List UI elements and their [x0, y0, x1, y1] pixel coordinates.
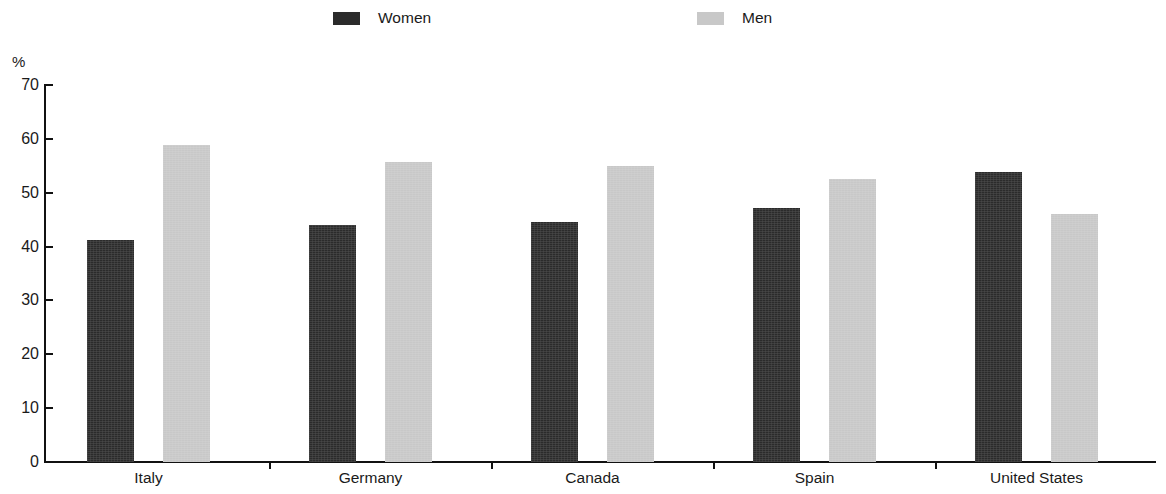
x-axis-category-label: Spain	[795, 470, 835, 486]
bar-men-italy	[163, 145, 210, 462]
bar-women-united-states	[975, 172, 1022, 462]
bar-women-germany	[309, 225, 356, 462]
y-axis-tick-label: 70	[5, 77, 39, 93]
x-axis-category-label: Germany	[339, 470, 403, 486]
y-axis-unit-label: %	[12, 54, 25, 69]
x-axis-tick	[269, 461, 271, 469]
y-axis-tick-label: 0	[5, 454, 39, 470]
plot-area: % 706050403020100 ItalyGermanyCanadaSpai…	[0, 0, 1166, 494]
y-axis-tick-label: 40	[5, 239, 39, 255]
y-axis-tick	[44, 246, 53, 248]
y-axis-tick	[44, 461, 53, 463]
y-axis-tick	[44, 299, 53, 301]
y-axis-tick	[44, 353, 53, 355]
bar-men-spain	[829, 179, 876, 462]
y-axis-tick	[44, 192, 53, 194]
y-axis-tick	[44, 407, 53, 409]
x-axis-category-label: United States	[990, 470, 1083, 486]
y-axis-tick-label: 30	[5, 292, 39, 308]
y-axis-tick-label: 10	[5, 400, 39, 416]
x-axis-tick	[491, 461, 493, 469]
y-axis-tick	[44, 138, 53, 140]
x-axis-category-label: Canada	[565, 470, 619, 486]
bar-women-italy	[87, 240, 134, 462]
bar-chart: Women Men % 706050403020100 ItalyGermany…	[0, 0, 1166, 494]
x-axis-category-label: Italy	[134, 470, 162, 486]
bar-men-germany	[385, 162, 432, 462]
x-axis-tick	[713, 461, 715, 469]
y-axis-tick-label: 60	[5, 131, 39, 147]
y-axis-tick-label: 20	[5, 346, 39, 362]
bar-women-canada	[531, 222, 578, 462]
y-axis-tick-label: 50	[5, 185, 39, 201]
bar-men-united-states	[1051, 214, 1098, 462]
bar-men-canada	[607, 166, 654, 462]
bar-women-spain	[753, 208, 800, 462]
x-axis-tick	[935, 461, 937, 469]
y-axis-tick	[44, 84, 53, 86]
